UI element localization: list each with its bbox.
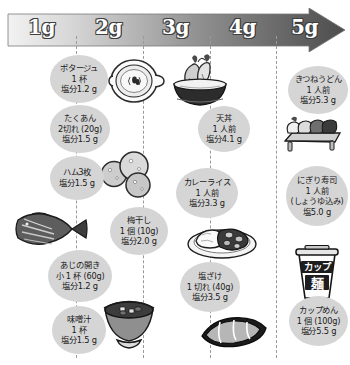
udon-salt: 塩分5.3 g — [300, 95, 336, 106]
tendon-name: 天丼 — [216, 113, 232, 124]
aji-salt: 塩分1.2 g — [62, 281, 98, 292]
cupnoodle-name: カップめん — [299, 305, 338, 316]
salt-content-infographic: 1g 2g 3g 4g 5g — [0, 0, 350, 365]
shiozake-salt: 塩分3.5 g — [192, 292, 228, 303]
salted-salmon-icon — [196, 310, 270, 352]
sushi-name: にぎり寿司 — [297, 175, 336, 186]
sushi-salt: 塩5.0 g — [303, 207, 331, 218]
ham-name: ハム3枚 — [63, 167, 91, 178]
umeboshi-name: 梅干し — [127, 215, 150, 226]
potage-salt: 塩分1.2 g — [61, 84, 97, 95]
scale-tick-2g: 2g — [95, 15, 122, 39]
scale-tick-1g: 1g — [28, 15, 55, 39]
shiozake-name: 塩ざけ — [198, 271, 221, 282]
cupnoodle-portion: 1 個 (100g) — [297, 316, 341, 327]
umeboshi-salt: 塩分2.0 g — [121, 236, 157, 247]
bubble-misoshiru[interactable]: 味噌汁 1 杯 塩分1.5 g — [52, 306, 106, 354]
bubble-nigiri-sushi[interactable]: にぎり寿司 1 人前 (しょうゆ込み) 塩5.0 g — [286, 166, 348, 226]
tendon-portion: 1 人前 — [212, 124, 235, 135]
bubble-aji-no-hiraki[interactable]: あじの開き 小 1 杯 (60g) 塩分1.2 g — [48, 250, 112, 302]
scale-tick-5g: 5g — [291, 15, 318, 39]
bubble-takuan[interactable]: たくあん 2切れ (20g) 塩分1.5 g — [50, 105, 110, 153]
cup-noodle-icon: カップ 麺 — [292, 244, 342, 302]
tempura-rice-bowl-icon — [168, 52, 232, 114]
bubble-cup-noodle[interactable]: カップめん 1 個 (100g) 塩分5.5 g — [289, 296, 348, 346]
takuan-portion: 2切れ (20g) — [58, 124, 102, 135]
miso-name: 味噌汁 — [67, 314, 90, 325]
miso-soup-bowl-icon — [98, 296, 160, 354]
bubble-shiozake[interactable]: 塩ざけ 1 切れ (40g) 塩分3.5 g — [180, 262, 240, 312]
ham-slices-icon — [98, 148, 156, 200]
bubble-curry-rice[interactable]: カレーライス 1 人前 塩分3.3 g — [176, 168, 238, 218]
aji-name: あじの開き — [60, 260, 99, 271]
nigiri-sushi-platter-icon — [282, 115, 344, 161]
cup-noodle-label-bottom: 麺 — [310, 276, 324, 291]
gridline-4g-5g — [276, 36, 277, 358]
takuan-salt: 塩分1.5 g — [62, 134, 98, 145]
soup-cup-icon — [108, 56, 166, 106]
cupnoodle-salt: 塩分5.5 g — [301, 326, 337, 337]
potage-portion: 1 杯 — [71, 74, 86, 85]
bubble-ham[interactable]: ハム3枚 塩分1.5 g — [50, 156, 104, 200]
bubble-kitsune-udon[interactable]: きつねうどん 1 人前 塩分5.3 g — [288, 66, 348, 114]
curry-salt: 塩分3.3 g — [189, 198, 225, 209]
cup-noodle-label-top: カップ — [304, 261, 332, 272]
udon-name: きつねうどん — [295, 74, 342, 85]
scale-tick-4g: 4g — [229, 15, 256, 39]
tendon-salt: 塩分4.1 g — [206, 134, 242, 145]
bubble-tendon[interactable]: 天丼 1 人前 塩分4.1 g — [198, 106, 250, 152]
potage-name: ポタージュ — [60, 63, 98, 74]
salt-scale-arrow: 1g 2g 3g 4g 5g — [0, 8, 350, 52]
udon-portion: 1 人前 — [306, 85, 329, 96]
bubble-potage[interactable]: ポタージュ 1 杯 塩分1.2 g — [50, 55, 108, 103]
curry-portion: 1 人前 — [195, 188, 218, 199]
miso-portion: 1 杯 — [71, 325, 86, 336]
miso-salt: 塩分1.5 g — [61, 335, 97, 346]
curry-name: カレーライス — [184, 177, 231, 188]
bubble-umeboshi[interactable]: 梅干し 1 個 (10g) 塩分2.0 g — [110, 207, 168, 255]
takuan-name: たくあん — [64, 113, 95, 124]
umeboshi-portion: 1 個 (10g) — [120, 226, 159, 237]
scale-tick-3g: 3g — [162, 15, 189, 39]
sushi-portion: 1 人前 — [305, 186, 328, 197]
shiozake-portion: 1 切れ (40g) — [187, 282, 233, 293]
curry-rice-plate-icon — [186, 213, 258, 261]
aji-portion: 小 1 杯 (60g) — [56, 271, 105, 282]
ham-salt: 塩分1.5 g — [59, 178, 95, 189]
sushi-portion-note: (しょうゆ込み) — [291, 196, 344, 207]
